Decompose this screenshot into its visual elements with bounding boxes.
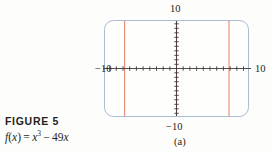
y-min-label: −10: [166, 121, 182, 132]
figure-number-label: FIGURE 5: [5, 115, 101, 128]
x-min-label: −10: [95, 63, 111, 74]
graphing-calculator-panel: 10 −10 10 −10 (a): [96, 2, 271, 152]
plot-canvas: [96, 2, 271, 152]
y-max-label: 10: [170, 3, 181, 14]
subfigure-label: (a): [174, 136, 186, 147]
formula-term2-coefficient: 49: [52, 131, 64, 143]
figure-caption: FIGURE 5 f(x) = x3 − 49x: [5, 115, 101, 145]
formula-term2-variable: x: [64, 131, 69, 143]
figure-5-container: FIGURE 5 f(x) = x3 − 49x: [0, 0, 271, 152]
x-max-label: 10: [255, 63, 266, 74]
figure-formula: f(x) = x3 − 49x: [5, 129, 101, 145]
